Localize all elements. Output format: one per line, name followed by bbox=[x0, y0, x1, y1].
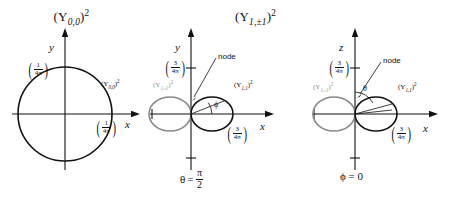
fraction: 1 4π bbox=[33, 62, 43, 78]
node-label: node bbox=[383, 56, 401, 65]
x-axis-arrowhead bbox=[265, 111, 274, 117]
paren-left: ( bbox=[227, 124, 230, 143]
condition-theta: θ = π 2 bbox=[180, 168, 204, 190]
condition-denominator: 2 bbox=[196, 179, 203, 191]
fraction-denominator: 4π bbox=[397, 133, 406, 141]
z-axis-group bbox=[350, 28, 360, 170]
angle-radius-line bbox=[355, 104, 392, 114]
x-axis-label: x bbox=[260, 120, 265, 132]
left-lobe-label-exponent: 2 bbox=[331, 82, 334, 87]
angle-label-phi: ϕ bbox=[214, 100, 218, 109]
x-axis-group bbox=[12, 111, 140, 117]
paren-left: ( bbox=[165, 58, 168, 77]
fraction-numerator: 1 bbox=[36, 62, 42, 69]
fraction-numerator: 3 bbox=[337, 60, 343, 67]
condition-phi: ϕ = 0 bbox=[340, 170, 363, 182]
spherical-harmonics-figure: (Y0,0)2 y x ( 1 4π ) bbox=[0, 0, 455, 199]
value-label-x-3over4pi: ( 3 4π ) bbox=[226, 124, 249, 143]
plot-y00 bbox=[0, 0, 155, 199]
y-axis-arrowhead bbox=[188, 28, 194, 37]
fraction: 3 4π bbox=[396, 126, 406, 142]
x-axis-arrowhead bbox=[131, 111, 140, 117]
paren-right: ) bbox=[113, 118, 116, 137]
paren-right: ) bbox=[45, 60, 48, 79]
fraction: 3 4π bbox=[232, 126, 242, 142]
panel-y1pm1-xz: z x ( 3 4π ) ( 3 4π ) node θ (Y1,-1)2 (Y… bbox=[300, 0, 455, 199]
right-lobe-label: (Y1,1)2 bbox=[234, 80, 253, 91]
right-lobe-label: (Y1,1)2 bbox=[398, 82, 417, 93]
angle-arc bbox=[208, 103, 212, 115]
fraction: 1 4π bbox=[101, 120, 111, 136]
paren-right: ) bbox=[346, 58, 349, 77]
fraction: 3 4π bbox=[170, 60, 180, 76]
y-axis-label: y bbox=[175, 41, 180, 53]
paren-left: ( bbox=[28, 60, 31, 79]
value-label-z-3over4pi: ( 3 4π ) bbox=[328, 58, 351, 77]
condition-numerator: π bbox=[196, 168, 203, 179]
fraction-numerator: 3 bbox=[399, 126, 405, 133]
plot-y1pm1-xy bbox=[150, 0, 305, 199]
x-axis-label: x bbox=[125, 118, 130, 130]
fraction-numerator: 1 bbox=[104, 120, 110, 127]
fraction-denominator: 4π bbox=[102, 127, 111, 135]
x-axis-arrowhead bbox=[429, 111, 438, 117]
value-label-y-3over4pi: ( 3 4π ) bbox=[164, 58, 187, 77]
x-axis-group bbox=[312, 109, 438, 119]
node-leader-line bbox=[194, 58, 216, 97]
fraction-denominator: 4π bbox=[335, 67, 344, 75]
y-axis-arrowhead bbox=[62, 28, 68, 37]
fraction-denominator: 4π bbox=[171, 67, 180, 75]
value-label-y-1over4pi: ( 1 4π ) bbox=[27, 60, 50, 79]
x-axis-label: x bbox=[423, 122, 428, 134]
paren-left: ( bbox=[96, 118, 99, 137]
angle-label-theta: θ bbox=[363, 84, 367, 93]
node-label: node bbox=[218, 52, 236, 61]
value-label-x-3over4pi: ( 3 4π ) bbox=[390, 124, 413, 143]
curve-label-exponent: 2 bbox=[117, 79, 120, 84]
y-axis-label: y bbox=[49, 41, 54, 53]
condition-fraction: π 2 bbox=[196, 168, 204, 190]
panel-y00: (Y0,0)2 y x ( 1 4π ) bbox=[0, 0, 155, 199]
fraction-numerator: 3 bbox=[235, 126, 241, 133]
paren-right: ) bbox=[182, 58, 185, 77]
fraction-denominator: 4π bbox=[233, 133, 242, 141]
right-lobe-label-exponent: 2 bbox=[414, 82, 417, 87]
curve-label-y00: (Y0,0)2 bbox=[101, 79, 120, 90]
paren-right: ) bbox=[408, 124, 411, 143]
z-axis-arrowhead bbox=[352, 28, 358, 37]
y-axis-group bbox=[62, 28, 68, 170]
panel-y1pm1-xy: (Y1,±1)2 y x bbox=[150, 0, 305, 199]
fraction-denominator: 4π bbox=[34, 69, 43, 77]
left-lobe-label: (Y1,-1)2 bbox=[313, 82, 333, 93]
paren-left: ( bbox=[391, 124, 394, 143]
left-lobe-label: (Y1,-1)2 bbox=[153, 80, 173, 91]
plot-y1pm1-xz bbox=[300, 0, 455, 199]
value-label-x-1over4pi: ( 1 4π ) bbox=[95, 118, 118, 137]
left-lobe-label-exponent: 2 bbox=[171, 80, 174, 85]
condition-equals: = bbox=[185, 173, 195, 185]
paren-left: ( bbox=[329, 58, 332, 77]
node-leader-arrowhead bbox=[357, 94, 362, 98]
fraction-numerator: 3 bbox=[173, 60, 179, 67]
right-lobe-label-exponent: 2 bbox=[250, 80, 253, 85]
z-axis-label: z bbox=[339, 41, 343, 53]
paren-right: ) bbox=[244, 124, 247, 143]
fraction: 3 4π bbox=[334, 60, 344, 76]
angle-radius-line-2 bbox=[355, 110, 392, 114]
